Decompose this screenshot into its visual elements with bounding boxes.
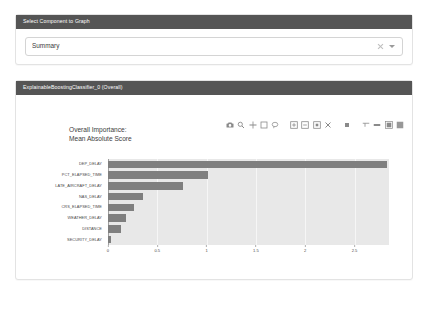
component-select-controls [377,43,396,50]
hover-compare-icon[interactable] [362,121,370,129]
x-axis: 00.511.522.5 [108,245,389,259]
toggle-spike-lines-icon[interactable] [343,121,351,129]
x-axis-tick-label: 0 [107,249,109,253]
component-select[interactable]: Summary [25,37,403,56]
bar-row [108,159,389,170]
bar-row [108,202,389,213]
bar[interactable] [108,182,183,190]
y-axis-tick-label-text: SECURITY_DELAY [67,238,102,242]
autoscale-icon[interactable] [313,121,321,129]
reset-axes-icon[interactable] [324,121,332,129]
y-axis-tick-label-text: CRS_ELAPSED_TIME [61,205,102,209]
x-axis-tick-label: 0.5 [154,249,160,253]
bar-row [108,224,389,235]
bar[interactable] [108,193,143,201]
select-component-panel-body: Summary [16,29,412,65]
x-axis-tick: 1 [205,245,207,253]
x-axis-tick-mark [255,245,256,247]
bar[interactable] [108,214,126,222]
plotly-figure: Overall Importance: Mean Absolute Score … [16,95,412,280]
graph-panel-header: ExplainableBoostingClassifier_0 (Overall… [16,81,412,95]
zoom-icon[interactable] [237,121,245,129]
x-axis-tick-mark [108,245,109,247]
bar[interactable] [108,171,208,179]
bar-row [108,170,389,181]
y-axis-tick-label-text: PCT_ELAPSED_TIME [62,173,102,177]
select-component-panel-header: Select Component to Graph [16,15,412,29]
y-axis-tick-label-text: NAS_DELAY [79,195,102,199]
zoom-out-icon[interactable] [301,121,309,129]
x-axis-tick: 0.5 [154,245,160,253]
app-page: Select Component to Graph Summary Explai… [0,0,427,310]
zoom-box-select-icon[interactable] [260,121,268,129]
y-axis-tick-label: PCT_ELAPSED_TIME [16,170,105,181]
y-axis-tick-label: DISTANCE [16,224,105,235]
x-axis-tick: 1.5 [253,245,259,253]
component-select-value: Summary [32,43,377,49]
download-plot-icon[interactable] [226,121,234,129]
bar-series [108,159,389,245]
bar[interactable] [108,225,121,233]
plotly-modebar[interactable] [226,121,404,129]
lasso-select-icon[interactable] [271,121,279,129]
hover-closest-icon[interactable] [373,121,381,129]
close-icon[interactable] [377,43,384,50]
y-axis-tick-label-text: LATE_AIRCRAFT_DELAY [55,184,102,188]
bar[interactable] [108,204,134,212]
graph-panel: ExplainableBoostingClassifier_0 (Overall… [15,80,413,280]
plotly-logo-icon[interactable] [385,121,393,129]
plotly-menu-icon[interactable] [396,121,404,129]
select-component-panel: Select Component to Graph Summary [15,14,413,65]
y-axis-tick-label: WEATHER_DELAY [16,213,105,224]
y-axis-tick-label-text: DEP_DELAY [79,162,102,166]
y-axis-tick-label-text: DISTANCE [82,227,102,231]
bar-row [108,181,389,192]
chevron-down-icon[interactable] [389,45,395,48]
bar[interactable] [108,236,111,244]
x-axis-tick: 0 [107,245,109,253]
bar-row [108,213,389,224]
x-axis-tick-label: 1 [205,249,207,253]
x-axis-tick-mark [354,245,355,247]
x-axis-tick-mark [157,245,158,247]
x-axis-tick: 2.5 [352,245,358,253]
y-axis-tick-label: SECURITY_DELAY [16,234,105,245]
x-axis-tick-label: 1.5 [253,249,259,253]
y-axis-tick-label: NAS_DELAY [16,191,105,202]
bar[interactable] [108,161,387,169]
y-axis-tick-label-text: WEATHER_DELAY [68,216,102,220]
x-axis-tick-mark [305,245,306,247]
x-axis-tick-mark [206,245,207,247]
y-axis-tick-label: LATE_AIRCRAFT_DELAY [16,181,105,192]
bar-row [108,234,389,245]
y-axis-tick-label: CRS_ELAPSED_TIME [16,202,105,213]
x-axis-tick: 2 [304,245,306,253]
x-axis-tick-label: 2.5 [352,249,358,253]
y-axis-tick-label: DEP_DELAY [16,159,105,170]
x-axis-tick-label: 2 [304,249,306,253]
bar-row [108,191,389,202]
y-axis-tick-labels: DEP_DELAYPCT_ELAPSED_TIMELATE_AIRCRAFT_D… [16,159,105,245]
pan-icon[interactable] [249,121,257,129]
chart-title: Overall Importance: Mean Absolute Score [69,125,132,144]
zoom-in-icon[interactable] [290,121,298,129]
